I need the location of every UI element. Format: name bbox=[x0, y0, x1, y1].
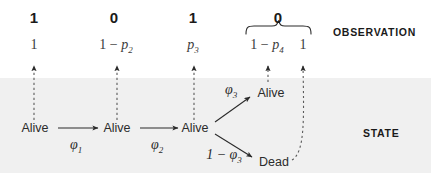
state-node-alive-1: Alive bbox=[21, 122, 48, 135]
observation-probability-1: 1 bbox=[31, 38, 38, 52]
observation-probability-5: 1 bbox=[300, 38, 307, 52]
detection-value-1: 1 bbox=[30, 10, 38, 25]
detection-value-2: 0 bbox=[110, 10, 118, 25]
observation-probability-2: 1 − p2 bbox=[99, 38, 132, 55]
detection-value-4: 0 bbox=[274, 10, 282, 25]
figure-canvas: 1 0 1 0 1 1 − p2 p3 1 − p4 1 Alive Alive… bbox=[0, 0, 431, 184]
observation-probability-3: p3 bbox=[187, 38, 199, 55]
row-label-observation: OBSERVATION bbox=[333, 27, 416, 38]
detection-value-3: 1 bbox=[189, 10, 197, 25]
transition-label-phi-1: φ1 bbox=[70, 138, 82, 155]
observation-link-5 bbox=[292, 66, 304, 160]
state-node-alive-4: Alive bbox=[257, 87, 284, 100]
state-node-alive-3: Alive bbox=[181, 122, 208, 135]
observation-probability-4: 1 − p4 bbox=[250, 38, 283, 55]
transition-label-one-minus-phi-3: 1 − φ3 bbox=[206, 148, 242, 165]
transition-label-phi-2: φ2 bbox=[151, 138, 163, 155]
row-label-state: STATE bbox=[363, 128, 399, 139]
transition-label-phi-3: φ3 bbox=[225, 83, 237, 100]
state-node-alive-2: Alive bbox=[103, 122, 130, 135]
state-node-dead: Dead bbox=[259, 156, 289, 169]
transition-arrow-3-survive bbox=[215, 97, 250, 122]
